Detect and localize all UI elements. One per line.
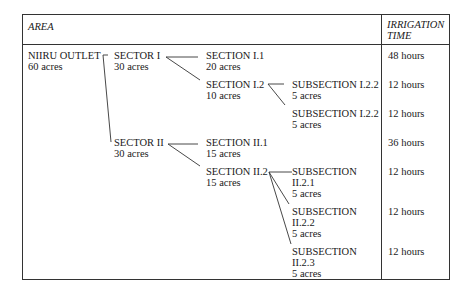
section-1-1-name: SECTION I.1 bbox=[206, 50, 264, 61]
sector-1-name: SECTOR I bbox=[114, 50, 160, 61]
subsection-a-name: SUBSECTION I.2.2 bbox=[292, 79, 379, 90]
section-2-2-size: 15 acres bbox=[206, 177, 241, 188]
time-subsection-e: 12 hours bbox=[388, 246, 424, 257]
sector-2-size: 30 acres bbox=[114, 148, 149, 159]
time-section-2-1: 36 hours bbox=[388, 137, 424, 148]
subsection-a-size: 5 acres bbox=[292, 90, 321, 101]
time-section-1-1: 48 hours bbox=[388, 50, 424, 61]
section-2-1-size: 15 acres bbox=[206, 148, 241, 159]
section-2-1-name: SECTION II.1 bbox=[206, 137, 268, 148]
subsection-e-line2: II.2.3 bbox=[292, 257, 315, 268]
section-1-2-size: 10 acres bbox=[206, 90, 241, 101]
subsection-e-size: 5 acres bbox=[292, 268, 321, 279]
subsection-e-line1: SUBSECTION bbox=[292, 246, 357, 257]
subsection-b-size: 5 acres bbox=[292, 119, 321, 130]
sector-2-name: SECTOR II bbox=[114, 137, 164, 148]
time-subsection-a: 12 hours bbox=[388, 79, 424, 90]
outlet-size: 60 acres bbox=[28, 61, 63, 72]
section-1-2-name: SECTION I.2 bbox=[206, 79, 264, 90]
subsection-c-size: 5 acres bbox=[292, 188, 321, 199]
time-subsection-c: 12 hours bbox=[388, 166, 424, 177]
time-subsection-b: 12 hours bbox=[388, 108, 424, 119]
subsection-b-name: SUBSECTION I.2.2 bbox=[292, 108, 379, 119]
subsection-c-line1: SUBSECTION bbox=[292, 166, 357, 177]
section-2-2-name: SECTION II.2 bbox=[206, 166, 268, 177]
subsection-c-line2: II.2.1 bbox=[292, 177, 315, 188]
section-1-1-size: 20 acres bbox=[206, 61, 241, 72]
sector-1-size: 30 acres bbox=[114, 61, 149, 72]
outlet-name: NIIRU OUTLET bbox=[28, 50, 101, 61]
subsection-d-size: 5 acres bbox=[292, 228, 321, 239]
subsection-d-line1: SUBSECTION bbox=[292, 206, 357, 217]
subsection-d-line2: II.2.2 bbox=[292, 217, 315, 228]
time-subsection-d: 12 hours bbox=[388, 206, 424, 217]
